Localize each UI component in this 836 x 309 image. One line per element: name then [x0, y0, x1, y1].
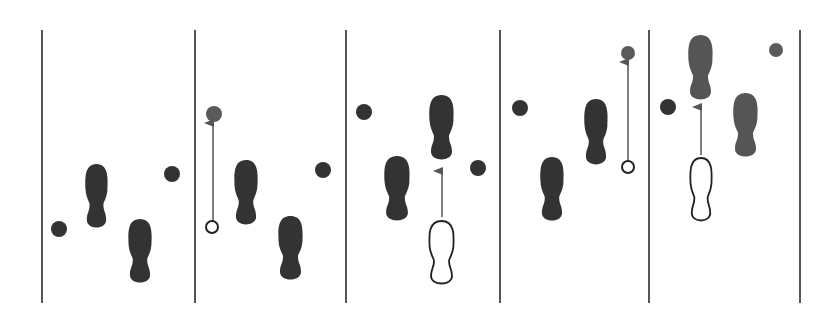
- footprint-icon: [584, 99, 607, 164]
- footprint-icon: [688, 35, 712, 99]
- footprint-icon: [429, 95, 453, 159]
- diagram-canvas: [0, 0, 836, 309]
- marker-dot-icon: [621, 46, 635, 60]
- marker-dot-icon: [769, 43, 783, 57]
- marker-dot-icon: [512, 100, 528, 116]
- marker-dot-icon: [51, 221, 67, 237]
- footprint-icon: [384, 156, 409, 220]
- footprint-icon: [234, 160, 257, 224]
- footprint-icon: [85, 164, 107, 227]
- footprint-icon: [540, 157, 563, 220]
- marker-start-icon: [206, 221, 218, 233]
- footprint-outline-icon: [429, 221, 453, 284]
- footprint-outline-icon: [690, 158, 711, 221]
- marker-start-icon: [622, 161, 634, 173]
- footwork-diagram: [0, 0, 836, 309]
- footprint-icon: [733, 93, 757, 156]
- footprint-icon: [278, 216, 302, 279]
- marker-dot-icon: [356, 104, 372, 120]
- footprint-icon: [128, 219, 151, 282]
- marker-dot-icon: [470, 160, 486, 176]
- marker-dot-icon: [164, 166, 180, 182]
- marker-dot-icon: [315, 162, 331, 178]
- marker-dot-icon: [206, 106, 222, 122]
- marker-dot-icon: [660, 99, 676, 115]
